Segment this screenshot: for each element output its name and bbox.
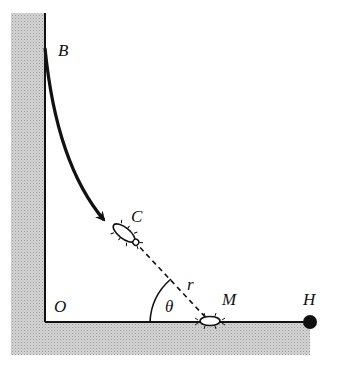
label-b: B [58,41,69,60]
label-r: r [187,275,194,294]
diagram-canvas: B C O r θ M H [0,0,341,366]
label-theta: θ [165,297,173,316]
label-m: M [221,290,237,309]
point-h-dot [303,315,317,329]
label-o: O [54,297,66,316]
label-h: H [302,290,317,309]
label-c: C [131,207,143,226]
trajectory-arrow [45,48,104,220]
